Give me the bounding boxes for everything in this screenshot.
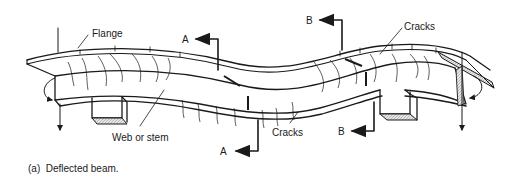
cracks-top-label: Cracks: [404, 21, 435, 32]
cracks-bottom-label: Cracks: [272, 127, 303, 138]
web-stem: [55, 66, 466, 119]
web-label: Web or stem: [112, 132, 169, 143]
support-right: [380, 90, 417, 120]
deflected-beam-diagram: A A B B Flange Web or stem Cracks Cracks…: [0, 0, 515, 184]
section-marks: [224, 59, 366, 110]
section-a-top: A: [182, 34, 218, 70]
section-a-bottom: A: [220, 120, 258, 157]
beam-drawing: A A B B Flange Web or stem Cracks Cracks…: [0, 0, 515, 184]
section-a-bottom-label: A: [220, 146, 227, 157]
section-b-top-label: B: [306, 15, 313, 26]
flange-label: Flange: [92, 28, 123, 39]
section-b-bottom-label: B: [338, 126, 345, 137]
flange: [27, 44, 494, 90]
section-a-top-label: A: [182, 34, 189, 45]
label-flange: Flange: [78, 28, 123, 48]
figure-caption: (a) Deflected beam.: [28, 163, 119, 174]
section-b-top: B: [306, 15, 342, 50]
